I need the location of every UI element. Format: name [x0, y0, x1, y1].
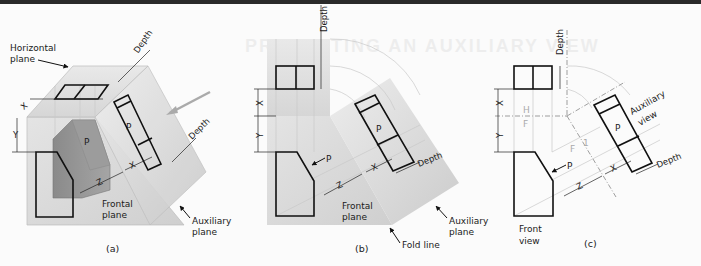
- dim-y: Y: [255, 132, 265, 139]
- dim-x-left: X: [495, 100, 505, 106]
- label-auxiliary-plane-1: Auxiliary: [192, 216, 232, 226]
- label-fold-line: Fold line: [402, 240, 440, 250]
- dim-depth-top: Depth: [319, 6, 329, 32]
- svg-text:P: P: [376, 124, 382, 134]
- panel-b: P P Depth X Y Z X Depth Frontal plane Au…: [254, 5, 489, 254]
- svg-text:P: P: [615, 123, 621, 133]
- label-auxiliary-plane-2: plane: [192, 227, 217, 237]
- surface-p-front: P: [326, 154, 332, 164]
- caption-c: (c): [584, 238, 597, 249]
- label-auxiliary-plane-1: Auxiliary: [449, 216, 489, 226]
- dim-depth-top: Depth: [131, 28, 154, 55]
- caption-b: (b): [355, 243, 368, 254]
- fold-label-1: 1: [583, 138, 589, 148]
- panel-c: P P H F F 1 Depth X Y Z X Depth Auxiliar…: [494, 29, 683, 249]
- surface-p-front: P: [567, 161, 573, 171]
- label-frontal-plane-2: plane: [342, 212, 367, 222]
- caption-a: (a): [106, 243, 119, 254]
- dim-y: Y: [12, 130, 19, 140]
- fold-label-f2: F: [570, 144, 575, 154]
- dim-x: X: [18, 100, 29, 112]
- dim-depth-top: Depth: [555, 29, 565, 55]
- dim-depth-aux: Depth: [655, 151, 683, 170]
- label-auxiliary-plane-2: plane: [449, 227, 474, 237]
- dim-x-left: X: [255, 100, 265, 106]
- label-frontal-plane-1: Frontal: [102, 199, 133, 209]
- label-frontal-plane-1: Frontal: [342, 201, 373, 211]
- fold-label-f: F: [523, 119, 528, 129]
- surface-p-label: P: [84, 137, 90, 147]
- label-front-view-2: view: [519, 236, 540, 246]
- label-frontal-plane-2: plane: [102, 210, 127, 220]
- front-view-outline: [514, 152, 553, 216]
- panel-a: P P Y X Depth Depth Z X Horizontal plane: [10, 28, 232, 254]
- fold-label-h: H: [523, 105, 530, 115]
- label-horizontal-plane-1: Horizontal: [10, 43, 56, 53]
- dim-y: Y: [495, 132, 505, 139]
- svg-text:P: P: [126, 122, 132, 132]
- label-front-view-1: Front: [519, 224, 542, 234]
- dim-depth-aux: Depth: [186, 116, 211, 141]
- label-horizontal-plane-2: plane: [10, 54, 35, 64]
- auxiliary-view-figure: P P Y X Depth Depth Z X Horizontal plane: [0, 0, 701, 266]
